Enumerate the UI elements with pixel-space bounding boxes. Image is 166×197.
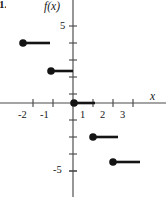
x-axis-label: x: [150, 91, 155, 103]
segment-2-closed-endpoint: [49, 69, 54, 74]
x-tick-label-1: 1: [80, 110, 85, 121]
item-number: 1.: [0, 0, 6, 12]
x-tick-label-3: 3: [120, 110, 125, 121]
y-tick-label-5: 5: [60, 21, 65, 32]
segment-4-closed-endpoint: [91, 135, 96, 140]
y-axis-label: f(x): [44, 1, 60, 13]
x-tick-label--1: -1: [40, 110, 49, 121]
step-function-figure: [0, 0, 166, 197]
axes-group: [0, 0, 166, 197]
segment-3-closed-endpoint: [72, 101, 77, 106]
x-tick-label--2: -2: [18, 110, 27, 121]
graph-canvas: [0, 0, 166, 197]
y-tick-label--5: -5: [53, 165, 62, 176]
segment-5-closed-endpoint: [111, 160, 116, 165]
x-tick-label-2: 2: [100, 110, 105, 121]
segment-1-closed-endpoint: [21, 41, 26, 46]
